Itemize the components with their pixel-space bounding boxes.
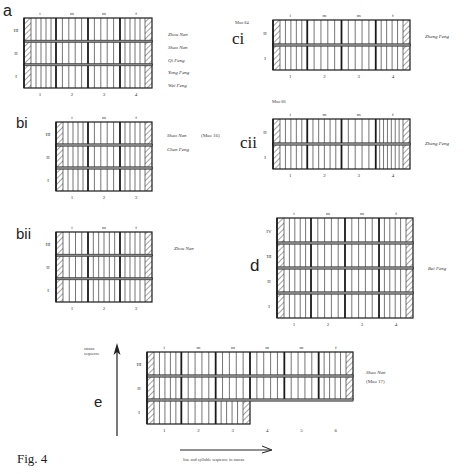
row-label-II: II	[263, 130, 267, 135]
hatch-start-III	[56, 232, 63, 255]
section-label-m: m	[357, 13, 361, 18]
source-zhou-nan-bii: Zhou Nan	[174, 246, 194, 251]
column-number-2: 2	[323, 173, 326, 178]
row-label-III: III	[46, 132, 51, 137]
hatch-start-II	[277, 268, 284, 293]
hatch-end-I	[403, 144, 410, 169]
panel-letter-cii: cii	[240, 134, 257, 151]
hatch-start-II	[24, 41, 31, 64]
section-label-m: m	[322, 112, 326, 117]
x-axis-arrow-icon	[180, 445, 275, 455]
column-number-3: 3	[232, 428, 235, 433]
hatch-start-III	[277, 243, 284, 268]
row-label-II: II	[137, 386, 141, 391]
note-mao-16: (Mao 16)	[201, 133, 220, 138]
x-axis-label: line and syllable sequence in stanza	[183, 458, 244, 462]
section-label-m: m	[70, 11, 74, 16]
hatch-start-II	[273, 20, 280, 45]
hatch-start-I	[24, 65, 31, 88]
column-number-4: 4	[266, 428, 269, 433]
source-shao-nan-bi: Shao Nan	[167, 133, 187, 138]
hatch-end-III	[346, 352, 353, 376]
section-label-i: i	[289, 112, 291, 117]
hatch-end-I	[145, 168, 152, 191]
row-label-III: III	[14, 28, 19, 33]
note-mao-17: (Mao 17)	[366, 379, 385, 384]
y-axis-label: stanza sequence	[84, 346, 110, 356]
hatch-start-I	[56, 168, 63, 191]
source-shao-nan-e: Shao Nan	[366, 370, 386, 375]
section-label-i: i	[71, 225, 73, 230]
stanza-grid-bi: IIIIIIimf123	[42, 108, 166, 205]
column-number-2: 2	[327, 322, 330, 327]
column-number-4: 4	[392, 173, 395, 178]
row-label-II: II	[267, 279, 271, 284]
source-shao-nan-a: Shao Nan	[168, 45, 188, 50]
row-label-II: II	[14, 51, 18, 56]
column-number-4: 4	[392, 74, 395, 79]
section-label-i: i	[163, 345, 165, 350]
row-label-II: II	[46, 265, 50, 270]
section-label-f: f	[135, 225, 137, 230]
hatch-end-I	[406, 293, 413, 318]
panel-letter-bii: bii	[16, 226, 31, 241]
source-wei-feng-a: Wei Feng	[168, 83, 187, 88]
stanza-grid-a: IIIIIIimmf1234	[10, 4, 166, 102]
hatch-end-II	[406, 268, 413, 293]
column-number-1: 1	[289, 173, 292, 178]
section-label-i: i	[39, 11, 41, 16]
row-label-II: II	[263, 31, 267, 36]
hatch-end-III	[406, 243, 413, 268]
section-label-m: m	[322, 13, 326, 18]
row-label-I: I	[15, 74, 17, 79]
row-label-III: III	[137, 362, 142, 367]
row-label-I: I	[268, 304, 270, 309]
section-label-f: f	[135, 115, 137, 120]
column-number-3: 3	[357, 173, 360, 178]
hatch-start-I	[273, 45, 280, 70]
panel-letter-d: d	[250, 257, 259, 274]
hatch-end-I	[145, 279, 152, 302]
hatch-end-I	[145, 65, 152, 88]
column-number-1: 1	[163, 428, 166, 433]
column-number-5: 5	[300, 428, 303, 433]
row-label-I: I	[47, 288, 49, 293]
column-number-1: 1	[39, 92, 42, 97]
hatch-start-III	[147, 352, 154, 376]
hatch-end-II	[145, 145, 152, 168]
column-number-1: 1	[71, 306, 74, 311]
hatch-end-IV	[406, 218, 413, 243]
section-label-m: m	[300, 345, 304, 350]
hatch-end-II	[403, 20, 410, 45]
hatch-end-III	[145, 18, 152, 41]
row-label-III: III	[267, 254, 272, 259]
column-number-2: 2	[103, 195, 106, 200]
column-number-3: 3	[103, 92, 106, 97]
hatch-end-I	[243, 400, 250, 424]
section-label-f: f	[135, 11, 137, 16]
source-zheng-feng-cii: Zheng Feng	[425, 141, 449, 146]
hatch-start-I	[277, 293, 284, 318]
hatch-start-I	[147, 400, 154, 424]
section-label-m: m	[102, 225, 106, 230]
hatch-start-II	[147, 376, 154, 400]
column-number-1: 1	[71, 195, 74, 200]
source-qi-feng-a: Qi Feng	[168, 58, 185, 63]
column-number-2: 2	[71, 92, 74, 97]
panel-letter-ci: ci	[232, 30, 244, 47]
section-label-m: m	[360, 211, 364, 216]
column-number-2: 2	[197, 428, 200, 433]
stanza-grid-bii: IIIIIIimf123	[42, 218, 166, 316]
column-number-4: 4	[135, 92, 138, 97]
figure-caption: Fig. 4	[17, 451, 47, 467]
column-number-4: 4	[395, 322, 398, 327]
hatch-start-III	[56, 122, 63, 145]
row-label-IV: IV	[266, 229, 272, 234]
source-zhou-nan-a: Zhou Nan	[168, 32, 188, 37]
note-mao-84: Mao 84	[235, 21, 249, 26]
column-number-2: 2	[323, 74, 326, 79]
stanza-grid-cii: IIIimmf1234	[259, 105, 424, 183]
row-label-I: I	[138, 410, 140, 415]
hatch-end-II	[403, 119, 410, 144]
hatch-start-II	[56, 145, 63, 168]
